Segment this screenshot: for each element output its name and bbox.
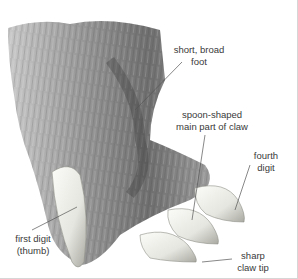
fur-leg	[0, 0, 298, 265]
label-fourth-digit: fourth digit	[246, 150, 286, 173]
foot-diagram: short, broad foot spoon-shaped main part…	[0, 0, 298, 279]
label-claw-tip: sharp claw tip	[228, 250, 278, 273]
label-first-digit: first digit (thumb)	[6, 233, 60, 256]
label-claw-main: spoon-shaped main part of claw	[172, 109, 252, 132]
label-foot: short, broad foot	[170, 44, 228, 67]
